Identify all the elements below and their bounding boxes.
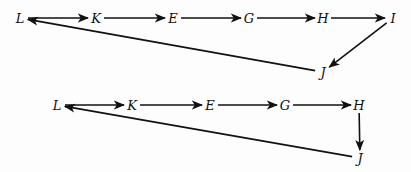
diagram-canvas xyxy=(0,0,411,172)
node-j: J xyxy=(320,66,325,79)
edge-j-to-l-arrow xyxy=(65,106,352,156)
node-g: G xyxy=(280,99,290,112)
node-e: E xyxy=(205,99,215,112)
node-l: L xyxy=(16,12,25,25)
edge-i-to-j-arrow xyxy=(329,23,386,67)
node-j: J xyxy=(357,152,362,165)
node-e: E xyxy=(168,12,178,25)
edge-h-to-j-arrow xyxy=(359,113,360,150)
node-h: H xyxy=(353,99,364,112)
node-k: K xyxy=(91,12,101,25)
node-k: K xyxy=(127,99,137,112)
node-h: H xyxy=(317,12,328,25)
node-l: L xyxy=(53,99,62,112)
node-g: G xyxy=(244,12,254,25)
edge-j-to-l-arrow xyxy=(28,19,315,70)
node-i: I xyxy=(390,12,395,25)
